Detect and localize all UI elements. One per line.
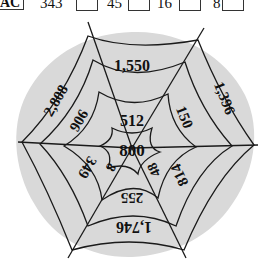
web-number-1550: 1,550 — [114, 57, 150, 74]
top-number-2: 45 — [107, 0, 122, 12]
answer-box-2[interactable] — [128, 0, 150, 11]
spider-web: 1,550 1,396 1,746 2,808 906 150 814 255 … — [0, 18, 264, 259]
web-number-255: 255 — [121, 190, 144, 206]
top-number-1: 343 — [40, 0, 63, 12]
top-number-row: AC 343 45 16 8 — [0, 0, 264, 12]
answer-box-3[interactable] — [179, 0, 201, 11]
web-number-512: 512 — [120, 112, 144, 129]
answer-box-4[interactable] — [222, 0, 244, 11]
web-center-number: 800 — [119, 141, 145, 160]
answer-box-1[interactable] — [76, 0, 98, 11]
top-number-4: 8 — [213, 0, 221, 12]
label-box: AC — [0, 0, 24, 10]
web-number-1746: 1,746 — [116, 219, 152, 236]
top-number-3: 16 — [157, 0, 172, 12]
